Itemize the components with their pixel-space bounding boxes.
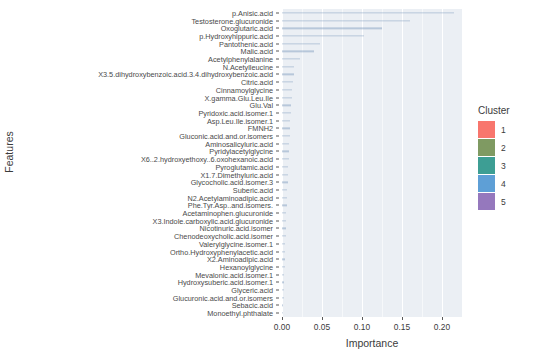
y-tick-mark <box>276 28 279 29</box>
gridline-minor <box>342 9 343 317</box>
bar <box>282 58 300 59</box>
y-tick-mark <box>276 282 279 283</box>
y-tick-mark <box>276 128 279 129</box>
bar <box>282 112 291 113</box>
y-tick-mark <box>276 43 279 44</box>
bar <box>282 182 288 183</box>
y-tick-mark <box>276 136 279 137</box>
legend-swatch <box>478 193 495 210</box>
x-tick-mark <box>442 317 443 320</box>
bar <box>282 97 292 98</box>
legend-label: 1 <box>501 125 506 135</box>
x-tick-label: 0.10 <box>354 322 370 332</box>
legend-title: Cluster <box>478 105 533 116</box>
bar <box>282 120 290 121</box>
y-tick-mark <box>276 59 279 60</box>
y-tick-mark <box>276 35 279 36</box>
y-axis-tick-labels: p.Anisic.acidTestosterone.glucuronideOxo… <box>12 9 279 317</box>
bar <box>282 243 285 244</box>
bar <box>282 28 382 29</box>
bar <box>282 251 285 252</box>
y-tick-mark <box>276 51 279 52</box>
bar <box>282 212 286 213</box>
x-axis-title: Importance <box>282 337 462 349</box>
y-tick-mark <box>276 166 279 167</box>
bar <box>282 128 290 129</box>
y-tick-mark <box>276 120 279 121</box>
gridline-major <box>282 9 283 317</box>
gridline-major <box>442 9 443 317</box>
legend-item[interactable]: 5 <box>478 193 533 210</box>
bar <box>282 174 288 175</box>
bar <box>282 305 283 306</box>
legend-item[interactable]: 4 <box>478 175 533 192</box>
y-tick-mark <box>276 143 279 144</box>
y-tick-mark <box>276 313 279 314</box>
legend-item[interactable]: 2 <box>478 139 533 156</box>
y-tick-mark <box>276 189 279 190</box>
y-tick-mark <box>276 174 279 175</box>
y-tick-mark <box>276 97 279 98</box>
gridline-major <box>322 9 323 317</box>
y-tick-mark <box>276 220 279 221</box>
y-tick-mark <box>276 205 279 206</box>
legend-label: 5 <box>501 197 506 207</box>
x-tick-label: 0.15 <box>394 322 410 332</box>
y-tick-mark <box>276 243 279 244</box>
x-tick-label: 0.20 <box>434 322 450 332</box>
y-tick-mark <box>276 112 279 113</box>
y-tick-mark <box>276 213 279 214</box>
y-tick-mark <box>276 151 279 152</box>
y-tick-mark <box>276 66 279 67</box>
x-tick-mark <box>322 317 323 320</box>
y-tick-mark <box>276 82 279 83</box>
bar <box>282 51 314 52</box>
gridline-minor <box>422 9 423 317</box>
bar <box>282 135 290 136</box>
bar <box>282 35 364 36</box>
y-tick-mark <box>276 290 279 291</box>
legend-item[interactable]: 1 <box>478 121 533 138</box>
x-tick-mark <box>402 317 403 320</box>
gridline-minor <box>382 9 383 317</box>
y-tick-mark <box>276 74 279 75</box>
y-tick-mark <box>276 259 279 260</box>
legend-swatch <box>478 157 495 174</box>
y-tick-mark <box>276 105 279 106</box>
bar <box>282 197 287 198</box>
bar <box>282 89 292 90</box>
gridline-minor <box>302 9 303 317</box>
legend-item[interactable]: 3 <box>478 157 533 174</box>
y-tick-mark <box>276 182 279 183</box>
x-axis: 0.000.050.100.150.20 <box>282 317 462 337</box>
bar <box>282 297 284 298</box>
gridline-major <box>402 9 403 317</box>
x-tick-mark <box>282 317 283 320</box>
y-tick-mark <box>276 274 279 275</box>
legend-swatch <box>478 121 495 138</box>
bar <box>282 151 289 152</box>
y-tick-mark <box>276 236 279 237</box>
bar <box>282 105 291 106</box>
bar <box>282 282 284 283</box>
y-tick-mark <box>276 297 279 298</box>
bar <box>282 266 285 267</box>
legend-swatch <box>478 175 495 192</box>
bar <box>282 259 285 260</box>
legend-items: 12345 <box>478 121 533 210</box>
legend-label: 3 <box>501 161 506 171</box>
y-tick-mark <box>276 266 279 267</box>
bar <box>282 81 293 82</box>
bar <box>282 189 287 190</box>
plot-title <box>352 0 412 4</box>
bar <box>282 220 286 221</box>
bar <box>282 274 284 275</box>
bar <box>282 43 320 44</box>
legend-swatch <box>478 139 495 156</box>
y-tick-mark <box>276 12 279 13</box>
legend-label: 4 <box>501 179 506 189</box>
bar <box>282 228 286 229</box>
legend-label: 2 <box>501 143 506 153</box>
y-tick-mark <box>276 228 279 229</box>
y-tick-mark <box>276 251 279 252</box>
